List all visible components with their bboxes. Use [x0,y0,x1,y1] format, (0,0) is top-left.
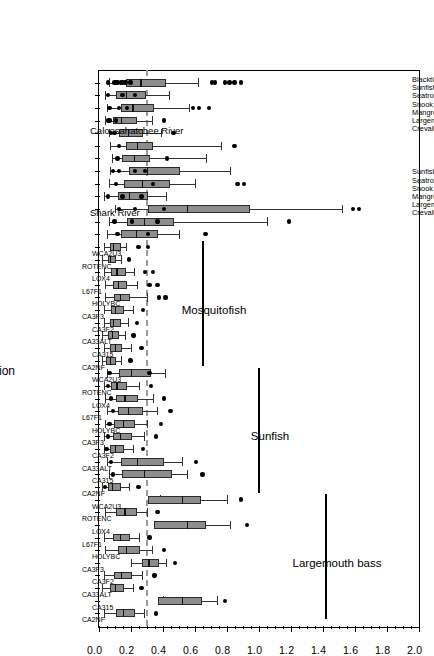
species-annotation: Crevalle jack [412,208,434,217]
box-shark-river[interactable] [127,218,173,226]
outlier-point [152,573,156,577]
axis-tick-label: 1.4 [311,644,339,656]
outlier-point [139,586,143,590]
box-ca315[interactable] [158,597,203,605]
box-rotenc[interactable] [111,382,127,390]
whisker-cap-upper [182,457,183,466]
box-shark-river[interactable] [124,180,170,188]
axis-tick [419,626,420,632]
axis-minor-tick [307,626,308,629]
axis-tick [99,626,100,632]
category-tick [95,171,100,172]
axis-minor-tick [331,626,332,629]
axis-minor-tick [219,626,220,629]
box-ca33alt[interactable] [121,458,164,466]
group-marker-label-mosquitofish: Mosquitofish [182,304,247,316]
category-label: CA3F2 [92,452,114,459]
axis-minor-tick [147,626,148,629]
axis-minor-tick [235,626,236,629]
whisker-cap-upper [165,369,166,378]
median-line [131,369,132,377]
axis-minor-tick [395,626,396,629]
figure-root: 0.00.20.40.60.81.01.21.41.61.82.0THg (mg… [0,0,434,656]
axis-minor-tick [107,626,108,629]
category-label: CA3F2 [92,578,114,585]
box-lox4[interactable] [111,268,125,276]
axis-tick [259,626,260,632]
whisker-cap-upper [142,571,143,580]
outlier-point [232,80,236,84]
category-tick [95,158,100,159]
whisker-cap-upper [230,521,231,530]
median-line [142,180,143,188]
box-caloosahatchee-river[interactable] [126,142,153,150]
axis-minor-tick [371,626,372,629]
median-line [137,142,138,150]
box-l67f1[interactable] [113,534,131,542]
axis-minor-tick [171,626,172,629]
outlier-point [165,156,169,160]
outlier-point [130,219,134,223]
category-tick [95,83,100,84]
box-lox4[interactable] [154,521,205,529]
median-line [115,445,116,453]
median-line [128,407,129,415]
box-caloosahatchee-river[interactable] [122,155,149,163]
median-line [136,230,137,238]
category-label: LOX4 [92,528,110,535]
category-tick [95,386,100,387]
box-wca2u3[interactable] [119,369,151,377]
category-axis-title: Location [0,364,15,378]
outlier-point [191,106,195,110]
axis-minor-tick [211,626,212,629]
median-line [134,155,135,163]
outlier-point [154,434,158,438]
category-label: CA315 [92,477,113,484]
category-tick [95,436,100,437]
box-wca2u3[interactable] [148,496,201,504]
axis-tick-label: 0.2 [119,644,147,656]
whisker-cap-lower [110,142,111,151]
box-ca3f3[interactable] [111,306,124,314]
whisker-cap-upper [134,268,135,277]
outlier-point [287,219,291,223]
whisker-cap-lower [109,179,110,188]
category-tick [95,462,100,463]
outlier-point [107,106,111,110]
box-l67f1[interactable] [113,281,127,289]
whisker-cap-upper [137,281,138,290]
box-l67f1[interactable] [118,407,144,415]
group-marker-label-sunfish: Sunfish [251,430,289,442]
whisker-cap-upper [342,205,343,214]
category-tick [95,310,100,311]
axis-minor-tick [123,626,124,629]
whisker-cap-lower [112,154,113,163]
whisker-cap-upper [144,432,145,441]
axis-minor-tick [155,626,156,629]
category-tick [95,348,100,349]
axis-minor-tick [203,626,204,629]
box-shark-river[interactable] [121,230,158,238]
whisker-cap-upper [227,495,228,504]
reference-line-0-3 [146,70,148,626]
category-label: LOX4 [92,275,110,282]
whisker-cap-upper [166,192,167,201]
box-ca3f3[interactable] [142,559,160,567]
outlier-point [155,219,159,223]
box-ca3f2[interactable] [114,572,132,580]
box-ca315[interactable] [122,470,172,478]
outlier-point [120,194,124,198]
box-holybc[interactable] [118,546,140,554]
box-ca2nf[interactable] [108,483,121,491]
box-lox4[interactable] [116,395,138,403]
whisker-cap-upper [267,217,268,226]
axis-tick-label: 0.4 [151,644,179,656]
category-tick [95,424,100,425]
outlier-point [131,333,135,337]
median-line [123,420,124,428]
outlier-point [147,535,151,539]
box-ca2nf[interactable] [116,609,135,617]
category-tick [95,146,100,147]
category-label: L67F1 [82,288,102,295]
outlier-point [227,80,231,84]
